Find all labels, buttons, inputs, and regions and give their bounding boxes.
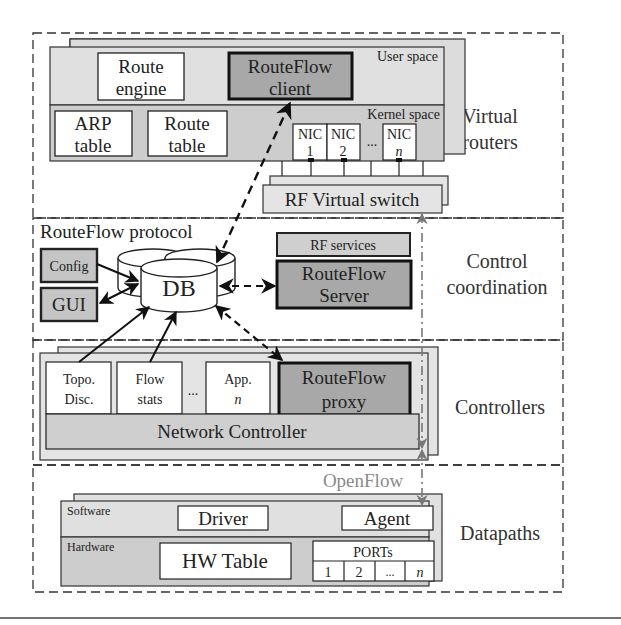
virtual-routers-label-1: Virtual: [462, 105, 518, 127]
app-flow-line2: stats: [138, 392, 163, 407]
network-controller-label: Network Controller: [157, 421, 307, 442]
controllers-label: Controllers: [455, 396, 545, 418]
port-1: 1: [325, 565, 332, 580]
app-ellipsis: ...: [188, 383, 199, 398]
control-coordination-label-1: Control: [466, 250, 528, 272]
gui-label: GUI: [52, 294, 86, 315]
routeflow-client-line2: client: [269, 78, 312, 99]
routeflow-server-line2: Server: [319, 285, 369, 306]
app-n-line2: n: [235, 392, 242, 407]
routeflow-client-line1: RouteFlow: [248, 56, 333, 77]
kernel-space-label: Kernel space: [367, 107, 440, 122]
datapaths-label: Datapaths: [460, 522, 540, 545]
virtual-routers-label-2: routers: [462, 131, 518, 153]
datapath-stack: Software Hardware Driver Agent HW Table …: [61, 494, 442, 586]
app-n-line1: App.: [224, 372, 252, 387]
nic-2-line1: NIC: [331, 127, 355, 142]
config-label: Config: [50, 259, 89, 274]
agent-label: Agent: [364, 508, 411, 529]
app-topo-line1: Topo.: [63, 372, 95, 387]
nic-1-line2: 1: [307, 144, 314, 159]
port-2: 2: [356, 565, 363, 580]
driver-label: Driver: [198, 508, 248, 529]
openflow-label: OpenFlow: [323, 470, 404, 491]
virtual-router: User space Kernel space Route engine Rou…: [50, 39, 465, 161]
app-topo-line2: Disc.: [64, 392, 93, 407]
routeflow-proxy-line1: RouteFlow: [302, 367, 387, 388]
route-table-line1: Route: [164, 113, 209, 134]
port-n: n: [417, 565, 424, 580]
rf-services-label: RF services: [310, 238, 376, 253]
routeflow-server-line1: RouteFlow: [302, 263, 387, 284]
nic-2-line2: 2: [340, 144, 347, 159]
user-space-label: User space: [377, 49, 438, 64]
controller-stack: Topo. Disc. Flow stats ... App. n RouteF…: [40, 347, 438, 460]
nic-ellipsis: ...: [367, 134, 378, 149]
route-engine-line1: Route: [118, 56, 163, 77]
route-engine-line2: engine: [116, 78, 167, 99]
rf-virtual-switch-label: RF Virtual switch: [285, 189, 420, 210]
control-coordination-label-2: coordination: [446, 276, 547, 298]
nic-1-line1: NIC: [298, 127, 322, 142]
arp-table-line2: table: [75, 135, 112, 156]
port-ellipsis: ...: [386, 565, 395, 579]
arp-table-line1: ARP: [75, 113, 112, 134]
routeflow-proxy-line2: proxy: [322, 391, 367, 412]
route-table-line2: table: [169, 135, 206, 156]
hw-table-label: HW Table: [182, 549, 268, 573]
app-flow-line1: Flow: [136, 372, 166, 387]
nic-n-line2: n: [396, 144, 403, 159]
ports-label: PORTs: [353, 545, 392, 560]
hardware-label: Hardware: [67, 540, 114, 554]
rf-virtual-switch: RF Virtual switch: [263, 176, 448, 213]
routeflow-protocol-label: RouteFlow protocol: [40, 221, 193, 242]
software-label: Software: [67, 504, 110, 518]
nic-n-line1: NIC: [387, 127, 411, 142]
db-label: DB: [162, 275, 195, 301]
